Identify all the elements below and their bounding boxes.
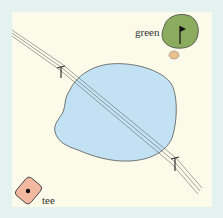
tee-marker-icon	[26, 189, 30, 193]
tee	[14, 176, 43, 206]
bunker	[169, 51, 179, 59]
green-label: green	[135, 26, 160, 38]
golf-hole-diagram: green tee	[0, 0, 223, 218]
tee-label: tee	[42, 194, 55, 206]
bridge-post-icon	[57, 66, 65, 78]
